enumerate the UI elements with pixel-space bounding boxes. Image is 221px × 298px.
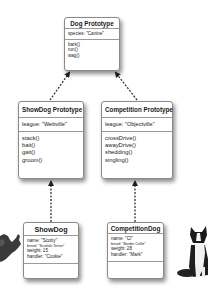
method: bait() [22,142,80,149]
competition-prototype-properties: league: "Objectville" [102,118,172,132]
dog-prototype-properties: species: "Canine" [65,29,119,40]
competition-prototype-methods: crossDrive() awayDrive() shedding() sing… [102,132,172,167]
competition-prototype-box: Competition Prototype league: "Objectvil… [101,101,173,179]
showdog-title: ShowDog [24,223,78,236]
method: crossDrive() [105,135,169,142]
showdog-prototype-methods: stack() bait() gait() groom() [19,132,83,167]
method: shedding() [105,149,169,156]
method: awayDrive() [105,142,169,149]
competitiondog-title: CompetitionDog [108,223,163,234]
handler-property: handler: "Mark" [111,252,160,258]
dog-prototype-title: Dog Prototype [65,18,119,29]
method: gait() [22,149,80,156]
showdog-prototype-title: ShowDog Prototype [19,102,83,118]
competitiondog-methods-empty [108,262,163,271]
showdog-properties: name: "Scotty" breed: "Scottish Terrier"… [24,236,78,264]
competitiondog-box: CompetitionDog name: "CI" breed: "Border… [107,222,164,279]
showdog-prototype-properties: league: "Webville" [19,118,83,132]
dog-prototype-methods: bark() run() wag() [65,40,119,61]
showdog-box: ShowDog name: "Scotty" breed: "Scottish … [23,222,79,279]
handler-property: handler: "Cookie" [27,254,75,260]
arrow-competition-proto-to-dog-proto [116,73,137,100]
method: stack() [22,135,80,142]
border-collie-image [175,223,215,281]
competitiondog-properties: name: "CI" breed: "Border Collie" weight… [108,234,163,262]
property: league: "Objectville" [105,121,169,128]
property: league: "Webville" [22,121,80,128]
dog-prototype-box: Dog Prototype species: "Canine" bark() r… [64,17,120,71]
arrow-showdog-proto-to-dog-proto [50,73,69,100]
scottish-terrier-image [0,226,22,266]
method: wag() [68,53,116,59]
showdog-methods-empty [24,264,78,273]
showdog-prototype-box: ShowDog Prototype league: "Webville" sta… [18,101,84,179]
method: singling() [105,157,169,164]
property: species: "Canine" [68,31,116,37]
method: groom() [22,157,80,164]
competition-prototype-title: Competition Prototype [102,102,172,118]
